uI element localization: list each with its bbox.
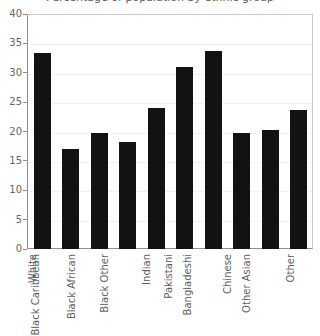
y-axis-tick-label: 20 xyxy=(9,126,22,138)
bar[interactable] xyxy=(34,53,51,249)
y-axis-tick-label: 15 xyxy=(9,155,22,167)
x-axis-labels: WhiteBlack CaribbeanBlack AfricanBlack O… xyxy=(28,252,313,334)
bar-slot xyxy=(176,14,193,249)
x-axis-label: Other Asian xyxy=(241,254,252,313)
x-axis-label: Pakistani xyxy=(162,254,173,299)
y-axis: 0510152025303540 xyxy=(0,0,27,334)
x-axis-label: Bangladeshi xyxy=(183,254,194,315)
y-axis-tick-label: 5 xyxy=(16,214,22,226)
bar[interactable] xyxy=(176,67,193,249)
y-axis-tick-mark xyxy=(23,131,27,132)
x-axis-label-slot: Bangladeshi xyxy=(205,252,222,334)
x-axis-label: Other xyxy=(285,254,296,282)
bar-slot xyxy=(148,14,165,249)
y-axis-tick-mark xyxy=(23,160,27,161)
x-axis-label-slot: Black Other xyxy=(119,252,136,334)
bar[interactable] xyxy=(62,149,79,249)
bars-layer xyxy=(28,14,313,249)
x-axis-label-slot: Other xyxy=(290,252,307,334)
bar-slot xyxy=(233,14,250,249)
bar-slot xyxy=(62,14,79,249)
y-axis-tick-label: 30 xyxy=(9,67,22,79)
y-axis-tick-label: 10 xyxy=(9,184,22,196)
chart-title: Percentage of population by ethnic group xyxy=(0,0,320,5)
bar[interactable] xyxy=(205,51,222,249)
y-axis-tick-mark xyxy=(23,219,27,220)
x-axis-label: Indian xyxy=(141,254,152,285)
bar-slot xyxy=(205,14,222,249)
y-axis-tick-mark xyxy=(23,72,27,73)
chart-title-clipped: Percentage of population by ethnic group xyxy=(0,0,320,5)
bar[interactable] xyxy=(290,110,307,249)
x-axis-label-slot: Other Asian xyxy=(262,252,279,334)
bar-slot xyxy=(34,14,51,249)
x-axis-label: Chinese xyxy=(222,254,233,294)
x-axis-label: Black African xyxy=(67,254,78,319)
y-axis-tick-label: 35 xyxy=(9,37,22,49)
bar[interactable] xyxy=(119,142,136,250)
bar[interactable] xyxy=(262,130,279,249)
y-axis-tick-label: 0 xyxy=(16,243,22,255)
y-axis-tick-mark xyxy=(23,249,27,250)
y-axis-tick-label: 25 xyxy=(9,96,22,108)
y-axis-tick-mark xyxy=(23,14,27,15)
bar-slot xyxy=(91,14,108,249)
bar[interactable] xyxy=(148,108,165,249)
y-axis-tick-mark xyxy=(23,102,27,103)
x-axis-label: Black Other xyxy=(98,254,109,313)
bar[interactable] xyxy=(91,133,108,249)
bar[interactable] xyxy=(233,133,250,249)
y-axis-tick-mark xyxy=(23,43,27,44)
x-axis-label: Black Caribbean xyxy=(30,254,41,336)
y-axis-tick-mark xyxy=(23,190,27,191)
bar-slot xyxy=(290,14,307,249)
bar-slot xyxy=(119,14,136,249)
bar-slot xyxy=(262,14,279,249)
y-axis-tick-label: 40 xyxy=(9,8,22,20)
